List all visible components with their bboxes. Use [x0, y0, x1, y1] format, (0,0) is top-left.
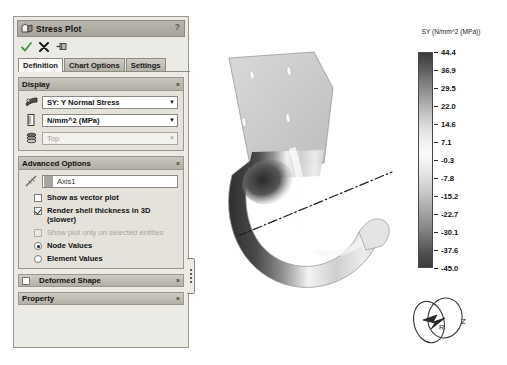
shell-face-dropdown[interactable]: Top ▼ — [42, 132, 178, 145]
units-dropdown[interactable]: N/mm^2 (MPa) ▼ — [42, 114, 178, 127]
chevron-expand-icon[interactable]: » — [176, 295, 180, 302]
panel-resize-grip[interactable] — [187, 258, 195, 294]
legend-tick-label: 44.4 — [441, 48, 456, 57]
units-value: N/mm^2 (MPa) — [47, 116, 100, 125]
view-orientation-triad[interactable]: Z R — [405, 296, 475, 352]
deformed-shape-checkbox[interactable] — [22, 277, 30, 285]
chevron-down-icon: ▼ — [169, 135, 175, 141]
legend-tick — [434, 196, 438, 197]
legend-color-bar — [418, 52, 433, 268]
legend-tick-label: -37.6 — [441, 246, 458, 255]
render-shell-thickness-checkbox[interactable] — [34, 207, 42, 215]
black-x-icon[interactable] — [39, 42, 49, 52]
panel-title-bar: Stress Plot ? — [17, 20, 185, 37]
property-label: Property — [22, 294, 54, 303]
deformed-shape-bar[interactable]: Deformed Shape » — [18, 274, 184, 287]
show-as-vector-plot-option[interactable]: Show as vector plot — [34, 193, 178, 202]
chevron-expand-icon[interactable]: » — [176, 277, 180, 284]
node-values-option[interactable]: Node Values — [34, 241, 178, 250]
tab-chart-options[interactable]: Chart Options — [64, 58, 125, 71]
legend-tick — [434, 214, 438, 215]
legend-tick-label: -7.8 — [441, 174, 454, 183]
advanced-options-group: Advanced Options « Axis1 Show as vector — [18, 156, 184, 269]
tab-definition[interactable]: Definition — [18, 58, 63, 72]
legend-tick — [434, 106, 438, 107]
legend-tick — [434, 160, 438, 161]
render-shell-thickness-option[interactable]: Render shell thickness in 3D (slower) — [34, 206, 178, 224]
axis-input[interactable]: Axis1 — [42, 175, 178, 188]
property-bar[interactable]: Property » — [18, 292, 184, 305]
legend-tick-label: -15.2 — [441, 192, 458, 201]
legend-tick-label: -0.3 — [441, 156, 454, 165]
panel-title: Stress Plot — [36, 24, 82, 34]
legend-tick — [434, 142, 438, 143]
shell-face-icon — [24, 131, 39, 145]
legend-tick-label: -22.7 — [441, 210, 458, 219]
display-group: Display « SY: Y Normal Stress ▼ — [18, 77, 184, 151]
legend-tick-label: 22.0 — [441, 102, 456, 111]
stress-component-value: SY: Y Normal Stress — [47, 98, 120, 107]
render-shell-thickness-label: Render shell thickness in 3D (slower) — [47, 206, 178, 224]
show-as-vector-plot-checkbox[interactable] — [34, 194, 42, 202]
legend-tick — [434, 88, 438, 89]
chevron-collapse-icon[interactable]: « — [176, 81, 180, 88]
panel-tabs: Definition Chart Options Settings — [18, 57, 190, 72]
legend-tick-label: 36.9 — [441, 66, 456, 75]
legend-tick-label: 7.1 — [441, 138, 452, 147]
legend-tick-label: -30.1 — [441, 228, 458, 237]
deformed-shape-label: Deformed Shape — [39, 276, 101, 285]
shell-face-row: Top ▼ — [24, 131, 178, 145]
tab-settings[interactable]: Settings — [126, 58, 166, 71]
legend-tick-label: 29.5 — [441, 84, 456, 93]
node-values-label: Node Values — [47, 241, 92, 250]
units-row: N/mm^2 (MPa) ▼ — [24, 113, 178, 127]
reference-axis-icon — [24, 174, 39, 188]
display-group-header[interactable]: Display « — [19, 78, 183, 91]
legend-tick — [434, 70, 438, 71]
show-plot-selected-entities-label: Show plot only on selected entities — [47, 228, 164, 237]
property-manager-panel: Stress Plot ? Definition Chart Options S… — [13, 16, 189, 348]
display-group-title: Display — [22, 80, 50, 89]
legend-title: SY (N/mm^2 (MPa)) — [401, 28, 501, 35]
triad-r-label: R — [439, 324, 444, 331]
legend-tick — [434, 268, 438, 269]
advanced-options-title: Advanced Options — [22, 159, 91, 168]
chevron-down-icon: ▼ — [169, 117, 175, 123]
show-as-vector-plot-label: Show as vector plot — [47, 193, 119, 202]
pushpin-icon[interactable] — [56, 42, 67, 52]
axis-value: Axis1 — [57, 177, 76, 186]
axis-selection-row: Axis1 — [24, 174, 178, 188]
panel-action-bar — [14, 39, 188, 55]
chevron-down-icon: ▼ — [169, 99, 175, 105]
stress-component-row: SY: Y Normal Stress ▼ — [24, 95, 178, 109]
help-button[interactable]: ? — [175, 22, 180, 32]
stress-plot-icon — [21, 23, 34, 34]
stress-component-icon — [24, 95, 39, 109]
legend-tick — [434, 250, 438, 251]
show-plot-selected-entities-checkbox — [34, 229, 42, 237]
legend-tick — [434, 124, 438, 125]
units-ruler-icon — [24, 113, 39, 127]
stress-legend: SY (N/mm^2 (MPa)) 44.436.929.522.014.67.… — [399, 28, 507, 35]
legend-tick-label: 14.6 — [441, 120, 456, 129]
node-values-radio[interactable] — [34, 242, 42, 250]
stress-component-dropdown[interactable]: SY: Y Normal Stress ▼ — [42, 96, 178, 109]
selection-color-swatch — [44, 176, 53, 187]
triad-z-label: Z — [461, 317, 466, 326]
show-plot-selected-entities-option: Show plot only on selected entities — [34, 228, 178, 237]
chevron-collapse-icon[interactable]: « — [176, 160, 180, 167]
element-values-option[interactable]: Element Values — [34, 254, 178, 263]
advanced-options-body: Axis1 Show as vector plot Render shell t… — [19, 170, 183, 268]
advanced-options-header[interactable]: Advanced Options « — [19, 157, 183, 170]
green-check-icon[interactable] — [21, 42, 32, 52]
display-group-body: SY: Y Normal Stress ▼ N/mm^2 (MPa) ▼ — [19, 91, 183, 150]
legend-tick — [434, 52, 438, 53]
legend-tick — [434, 232, 438, 233]
shell-face-value: Top — [47, 134, 59, 143]
element-values-label: Element Values — [47, 254, 103, 263]
legend-tick — [434, 178, 438, 179]
element-values-radio[interactable] — [34, 255, 42, 263]
legend-tick-label: -45.0 — [441, 264, 458, 273]
